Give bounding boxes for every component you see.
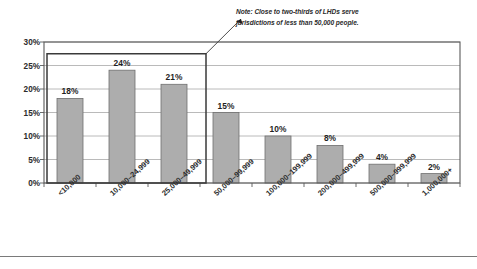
bar-value-label: 18% [62,86,79,96]
chart-figure: Note: Close to two-thirds of LHDs serve … [0,0,477,269]
bar-value-label: 21% [166,72,183,82]
bar-value-label: 4% [376,152,388,162]
bar-value-labels: 18%24%21%15%10%8%4%2% [0,0,477,269]
bar-value-label: 15% [218,101,235,111]
bar-value-label: 8% [324,133,336,143]
footer-divider [0,256,477,257]
bar-value-label: 24% [114,58,131,68]
bar-value-label: 2% [428,162,440,172]
bar-value-label: 10% [270,124,287,134]
